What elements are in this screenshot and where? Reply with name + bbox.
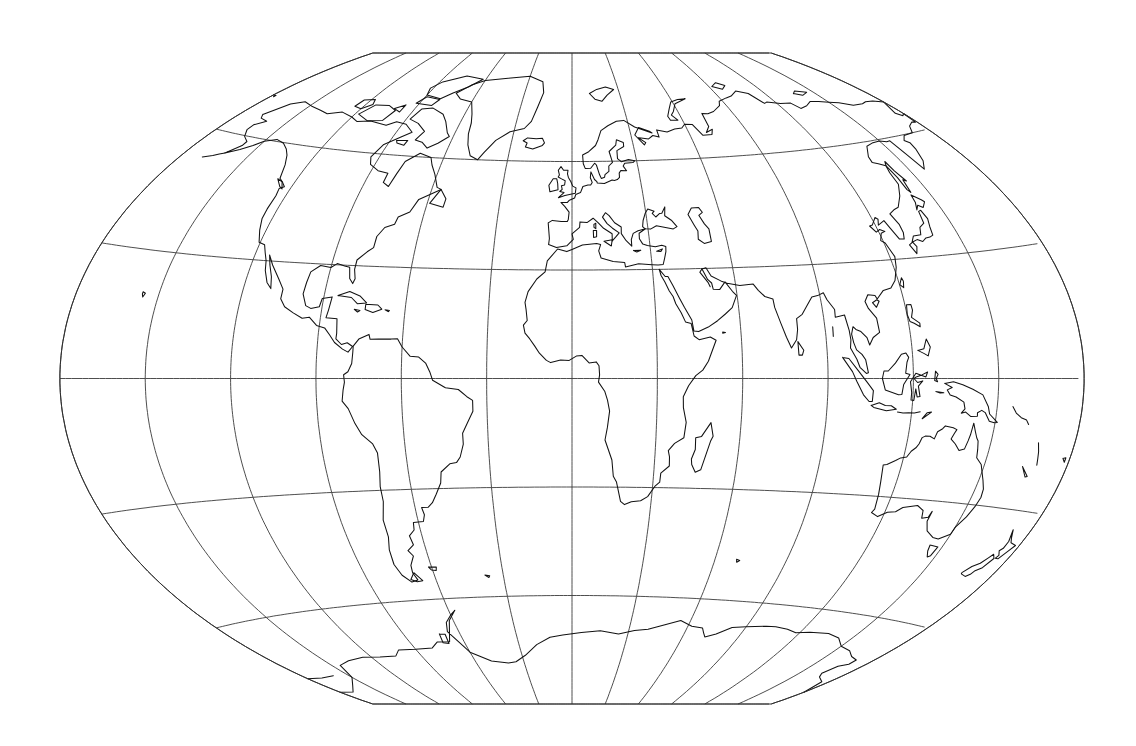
coastline-andaman-islands: [833, 327, 834, 337]
coastline-socotra: [723, 332, 726, 333]
world-map: [0, 0, 1136, 746]
